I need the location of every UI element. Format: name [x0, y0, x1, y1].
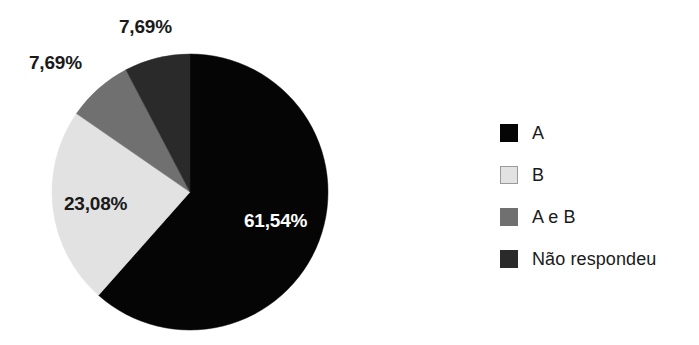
legend-label-b: B	[532, 165, 544, 186]
legend-item-b: B	[500, 154, 695, 196]
pie-chart-page: 61,54% 23,08% 7,69% 7,69% A B A e B Não …	[0, 0, 699, 345]
legend-swatch-a	[500, 124, 518, 142]
legend-label-a-e-b: A e B	[532, 207, 576, 228]
legend-item-nao-respondeu: Não respondeu	[500, 238, 695, 280]
legend-label-nao-respondeu: Não respondeu	[532, 249, 656, 270]
legend-swatch-a-e-b	[500, 208, 518, 226]
pie-chart-figure: 61,54% 23,08% 7,69% 7,69%	[0, 0, 420, 345]
legend-label-a: A	[532, 123, 544, 144]
legend-item-a-e-b: A e B	[500, 196, 695, 238]
legend-swatch-nao-respondeu	[500, 250, 518, 268]
slice-value-label-nao-respondeu: 7,69%	[119, 16, 172, 38]
legend-item-a: A	[500, 112, 695, 154]
pie-slice-group	[52, 54, 328, 330]
slice-value-label-a-e-b: 7,69%	[29, 52, 82, 74]
chart-legend: A B A e B Não respondeu	[500, 112, 695, 280]
legend-swatch-b	[500, 166, 518, 184]
slice-value-label-a: 61,54%	[244, 210, 307, 232]
slice-value-label-b: 23,08%	[64, 193, 127, 215]
